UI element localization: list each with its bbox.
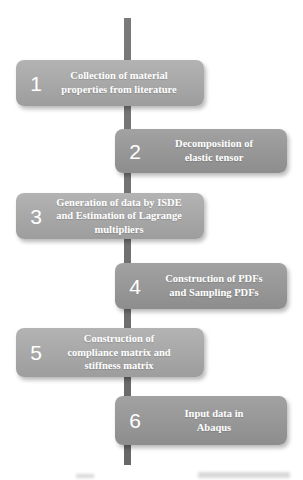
step-2-number: 2 bbox=[115, 141, 155, 162]
step-1-number: 1 bbox=[16, 73, 52, 94]
step-4-box: 4 Construction of PDFs and Sampling PDFs bbox=[115, 263, 287, 309]
step-6-label: Input data in Abaqus bbox=[155, 407, 287, 434]
step-4-number: 4 bbox=[115, 276, 155, 297]
step-2-box: 2 Decomposition of elastic tensor bbox=[115, 129, 287, 173]
step-3-label: Generation of data by ISDE and Estimatio… bbox=[52, 196, 204, 237]
step-6-box: 6 Input data in Abaqus bbox=[115, 396, 287, 445]
step-5-number: 5 bbox=[16, 342, 52, 363]
step-6-number: 6 bbox=[115, 410, 155, 431]
step-2-label: Decomposition of elastic tensor bbox=[155, 137, 287, 164]
step-3-number: 3 bbox=[16, 206, 52, 227]
step-1-box: 1 Collection of material properties from… bbox=[16, 60, 204, 106]
step-1-label: Collection of material properties from l… bbox=[52, 69, 204, 96]
cropped-caption-remnant bbox=[76, 474, 94, 478]
step-3-box: 3 Generation of data by ISDE and Estimat… bbox=[16, 193, 204, 239]
flowchart-figure: 1 Collection of material properties from… bbox=[0, 0, 303, 480]
step-4-label: Construction of PDFs and Sampling PDFs bbox=[155, 272, 287, 299]
step-5-box: 5 Construction of compliance matrix and … bbox=[16, 328, 204, 377]
cropped-caption-remnant bbox=[198, 472, 290, 478]
step-5-label: Construction of compliance matrix and st… bbox=[52, 332, 204, 373]
